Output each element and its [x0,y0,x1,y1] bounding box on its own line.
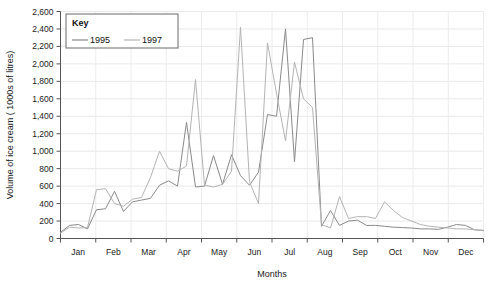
legend-title: Key [72,18,89,28]
y-tick-label: 2,000 [32,59,54,69]
y-tick-label: 600 [39,181,53,191]
y-tick-label: 200 [39,216,53,226]
x-tick-label-dec: Dec [458,247,474,257]
line-chart: 02004006008001,0001,2001,4001,6001,8002,… [0,0,500,283]
x-tick-label-jan: Jan [71,247,85,257]
x-tick-label-oct: Oct [389,247,403,257]
x-tick-label-may: May [211,247,228,257]
y-axis-title: Volume of ice cream ( 1000s of litres) [5,51,15,200]
x-axis-ticks: JanFebMarAprMayJunJulAugSepOctNovDec [61,239,484,257]
x-tick-label-mar: Mar [141,247,156,257]
x-axis-title: Months [257,269,287,279]
y-axis-ticks: 02004006008001,0001,2001,4001,6001,8002,… [32,7,60,244]
y-tick-label: 1,400 [32,111,54,121]
x-tick-label-apr: Apr [177,247,190,257]
x-tick-label-jun: Jun [248,247,262,257]
y-tick-label: 1,000 [32,146,54,156]
y-tick-label: 2,400 [32,24,54,34]
chart-legend[interactable]: Key 1995 1997 [66,14,178,48]
x-tick-label-feb: Feb [106,247,121,257]
y-tick-label: 800 [39,164,53,174]
y-tick-label: 1,200 [32,129,54,139]
x-tick-label-nov: Nov [423,247,439,257]
x-tick-label-aug: Aug [317,247,332,257]
legend-label-1997: 1997 [142,35,162,45]
legend-label-1995: 1995 [90,35,110,45]
y-tick-label: 2,600 [32,7,54,17]
y-tick-label: 1,800 [32,76,54,86]
y-tick-label: 0 [49,234,54,244]
y-tick-label: 2,200 [32,41,54,51]
x-tick-label-sep: Sep [353,247,368,257]
chart-canvas: 02004006008001,0001,2001,4001,6001,8002,… [0,0,500,283]
y-tick-label: 1,600 [32,94,54,104]
y-tick-label: 400 [39,199,53,209]
x-tick-label-jul: Jul [284,247,295,257]
